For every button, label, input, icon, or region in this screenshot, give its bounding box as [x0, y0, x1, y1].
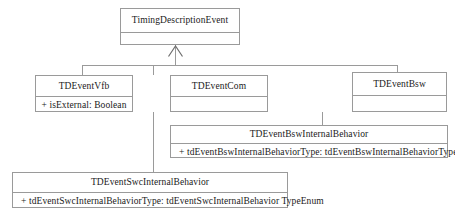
connector-drop-vfb [82, 65, 83, 75]
class-box-tdevent-com[interactable]: TDEventCom [170, 75, 268, 112]
class-attributes-tdevent-com [171, 96, 267, 112]
class-name-tdevent-vfb: TDEventVfb [36, 76, 132, 96]
class-attribute-td-event-bsw-internal-behavior-type: + tdEventBswInternalBehaviorType: tdEven… [171, 143, 447, 158]
class-box-tdevent-vfb[interactable]: TDEventVfb + isExternal: Boolean [35, 75, 133, 112]
uml-class-diagram: TimingDescriptionEvent TDEventVfb + isEx… [0, 0, 455, 221]
class-box-timing-description-event[interactable]: TimingDescriptionEvent [120, 8, 240, 45]
class-attributes-tdevent-bsw [353, 95, 446, 112]
connector-generalization-bus [82, 65, 398, 66]
class-attributes-timing-description-event [121, 32, 239, 45]
class-name-tdevent-com: TDEventCom [171, 76, 267, 96]
class-name-tdevent-swc-internal-behavior: TDEventSwcInternalBehavior [13, 173, 287, 192]
class-attribute-is-external: + isExternal: Boolean [36, 96, 132, 112]
generalization-arrow-icon [167, 45, 184, 57]
connector-drop-bsw [397, 65, 398, 72]
class-box-tdevent-bsw[interactable]: TDEventBsw [352, 72, 447, 112]
connector-drop-com [153, 65, 154, 75]
connector-bsw-to-bsw-internal-behavior [322, 112, 323, 125]
class-name-tdevent-bsw: TDEventBsw [353, 73, 446, 95]
class-name-timing-description-event: TimingDescriptionEvent [121, 9, 239, 32]
class-name-tdevent-bsw-internal-behavior: TDEventBswInternalBehavior [171, 126, 447, 143]
class-attribute-td-event-swc-internal-behavior-type: + tdEventSwcInternalBehaviorType: tdEven… [13, 192, 287, 208]
class-box-tdevent-bsw-internal-behavior[interactable]: TDEventBswInternalBehavior + tdEventBswI… [170, 125, 448, 158]
connector-com-to-swc-internal-behavior [153, 112, 154, 172]
class-box-tdevent-swc-internal-behavior[interactable]: TDEventSwcInternalBehavior + tdEventSwcI… [12, 172, 288, 208]
